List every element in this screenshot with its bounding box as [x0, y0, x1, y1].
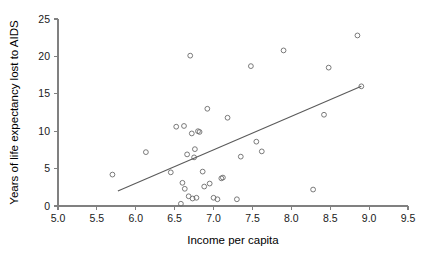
- data-point-marker: [207, 181, 212, 186]
- x-axis-title: Income per capita: [187, 234, 279, 246]
- data-point-marker: [248, 64, 253, 69]
- y-axis-title: Years of life expectancy lost to AIDS: [8, 20, 20, 205]
- axes-group: [58, 19, 408, 206]
- data-points-group: [110, 33, 364, 206]
- y-tick-label: 10: [38, 125, 50, 137]
- data-point-marker: [234, 197, 239, 202]
- data-point-marker: [185, 152, 190, 157]
- data-point-marker: [202, 184, 207, 189]
- data-point-marker: [326, 65, 331, 70]
- data-point-marker: [225, 115, 230, 120]
- data-point-marker: [259, 149, 264, 154]
- data-point-marker: [168, 170, 173, 175]
- data-point-marker: [110, 172, 115, 177]
- data-point-marker: [355, 33, 360, 38]
- data-point-marker: [220, 175, 225, 180]
- scatter-plot-figure: 5.05.56.06.57.07.58.08.59.09.5 051015202…: [0, 0, 426, 257]
- data-point-marker: [180, 180, 185, 185]
- regression-fit-line: [118, 86, 361, 191]
- x-tick-label: 5.5: [90, 212, 105, 224]
- data-point-marker: [143, 150, 148, 155]
- x-tick-label: 6.0: [128, 212, 143, 224]
- data-point-marker: [192, 147, 197, 152]
- x-tick-label: 5.0: [51, 212, 66, 224]
- data-point-marker: [254, 139, 259, 144]
- data-point-marker: [174, 124, 179, 129]
- data-point-marker: [197, 130, 202, 135]
- x-tick-label: 9.0: [362, 212, 377, 224]
- y-tick-label: 25: [38, 13, 50, 25]
- data-point-marker: [238, 154, 243, 159]
- data-point-marker: [182, 186, 187, 191]
- data-point-marker: [311, 187, 316, 192]
- y-tick-label: 5: [44, 162, 50, 174]
- data-point-marker: [200, 169, 205, 174]
- y-tick-label: 20: [38, 50, 50, 62]
- data-point-marker: [322, 112, 327, 117]
- x-tick-label: 8.5: [323, 212, 338, 224]
- data-point-marker: [205, 106, 210, 111]
- y-tick-label: 15: [38, 87, 50, 99]
- data-point-marker: [182, 124, 187, 129]
- x-tick-label: 8.0: [284, 212, 299, 224]
- x-tick-label: 7.5: [245, 212, 260, 224]
- x-axis-ticks: 5.05.56.06.57.07.58.08.59.09.5: [51, 206, 416, 224]
- x-tick-label: 7.0: [206, 212, 221, 224]
- plot-canvas: 5.05.56.06.57.07.58.08.59.09.5 051015202…: [0, 0, 426, 257]
- y-axis-ticks: 0510152025: [38, 13, 58, 212]
- x-tick-label: 6.5: [167, 212, 182, 224]
- data-point-marker: [281, 48, 286, 53]
- data-point-marker: [188, 53, 193, 58]
- y-tick-label: 0: [44, 200, 50, 212]
- x-tick-label: 9.5: [401, 212, 416, 224]
- data-point-marker: [189, 131, 194, 136]
